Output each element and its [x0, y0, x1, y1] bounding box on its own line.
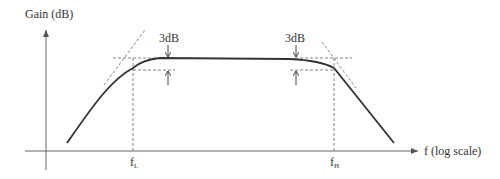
y-axis-label: Gain (dB) — [25, 7, 73, 21]
guide-lines — [104, 30, 356, 151]
x-axis-label: f (log scale) — [424, 144, 481, 158]
gain-curve — [67, 58, 394, 143]
fh-label: fH — [330, 155, 339, 170]
frequency-response-diagram: Gain (dB) f (log scale) 3dB 3dB fL fH — [0, 0, 500, 179]
left-3db-label: 3dB — [159, 31, 179, 45]
fl-label: fL — [130, 155, 138, 170]
right-3db-label: 3dB — [285, 31, 305, 45]
